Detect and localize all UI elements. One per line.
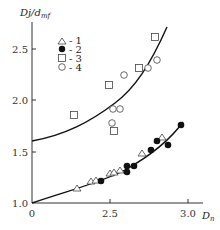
y-tick-label: 2.0 (12, 95, 28, 106)
y-axis-title: Dj/dmf (19, 7, 52, 20)
data-point (98, 178, 105, 185)
data-point (165, 142, 172, 149)
data-point (178, 122, 185, 129)
triangle-marker-icon (58, 38, 66, 44)
y-tick-label: 2.5 (12, 44, 28, 55)
data-point (154, 138, 161, 145)
x-axis-title: Dn (201, 210, 215, 223)
data-point (116, 167, 124, 173)
data-point (110, 106, 117, 113)
open-circle-marker-icon (59, 64, 66, 71)
x-tick-label: 3.0 (180, 208, 196, 219)
data-point (111, 128, 118, 135)
filled-circle-marker-icon (59, 46, 65, 52)
data-point (152, 34, 159, 41)
legend-label: - 4 (69, 62, 82, 73)
data-point (109, 120, 116, 127)
upper-fit-curve (32, 27, 167, 141)
data-point (106, 82, 113, 89)
y-tick-label: 1.5 (12, 147, 28, 158)
square-marker-icon (59, 55, 66, 62)
chart: 2.5 2.0 1.5 1.0 0 2.5 3.0 Dj/dmf Dn - 1 … (0, 0, 220, 230)
data-point (124, 163, 131, 170)
y-tick-label: 1.0 (12, 198, 28, 209)
lower-fit-curve (32, 122, 183, 203)
legend: - 1 - 2 - 3 - 4 (58, 35, 82, 73)
data-point (145, 65, 152, 72)
series-3 (71, 34, 159, 135)
data-point (148, 147, 155, 154)
data-point (131, 163, 138, 170)
data-point (138, 150, 146, 156)
data-point (71, 112, 78, 119)
data-point (154, 57, 161, 64)
series-1 (73, 134, 166, 191)
x-tick-label: 2.5 (102, 208, 118, 219)
data-point (136, 65, 143, 72)
data-point (124, 169, 131, 176)
data-point (117, 106, 124, 113)
x-tick-label: 0 (29, 208, 35, 219)
series-4 (109, 57, 161, 127)
data-point (121, 72, 128, 79)
